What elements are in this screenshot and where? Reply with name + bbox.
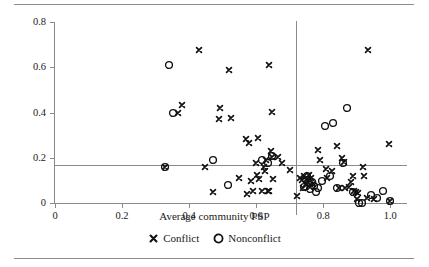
top-rule — [14, 4, 414, 5]
vertical-reference-line — [296, 21, 297, 215]
y-tick-label: 0.6 — [33, 62, 46, 73]
x-axis-label: Average community PSP — [0, 210, 429, 222]
data-point-conflict — [257, 187, 266, 196]
data-point-conflict — [305, 182, 314, 191]
data-point-conflict — [265, 187, 274, 196]
data-point-conflict — [264, 61, 273, 70]
data-point-conflict — [277, 158, 286, 167]
legend-label: Conflict — [163, 232, 199, 244]
data-point-conflict — [216, 103, 225, 112]
data-point-conflict — [260, 167, 269, 176]
data-point-conflict — [268, 108, 277, 117]
data-point-nonconflict — [317, 176, 326, 185]
data-point-conflict — [242, 134, 251, 143]
data-point-nonconflict — [164, 60, 173, 69]
y-tick — [50, 22, 55, 23]
data-point-conflict — [335, 184, 344, 193]
data-point-conflict — [214, 115, 223, 124]
data-point-conflict — [234, 173, 243, 182]
data-point-nonconflict — [306, 184, 315, 193]
x-tick — [189, 203, 190, 208]
figure-container: 00.20.40.60.800.20.40.60.81.0 Average co… — [0, 0, 429, 267]
data-point-conflict — [178, 101, 187, 110]
x-tick — [122, 203, 123, 208]
data-point-conflict — [341, 183, 350, 192]
data-point-nonconflict — [267, 151, 276, 160]
data-point-conflict — [301, 180, 310, 189]
data-point-nonconflict — [264, 159, 273, 168]
data-point-nonconflict — [314, 183, 323, 192]
data-point-nonconflict — [305, 179, 314, 188]
y-tick — [50, 67, 55, 68]
plot-area: 00.20.40.60.800.20.40.60.81.0 — [55, 22, 407, 203]
data-point-conflict — [337, 153, 346, 162]
data-point-conflict — [174, 109, 183, 118]
data-point-conflict — [195, 46, 204, 55]
data-point-nonconflict — [367, 191, 376, 200]
data-point-conflict — [304, 177, 313, 186]
data-point-nonconflict — [343, 103, 352, 112]
data-point-conflict — [252, 159, 261, 168]
data-point-conflict — [364, 46, 373, 55]
legend: ConflictNonconflict — [0, 232, 429, 244]
data-point-nonconflict — [303, 171, 312, 180]
data-point-conflict — [304, 170, 313, 179]
data-point-conflict — [208, 188, 217, 197]
data-point-conflict — [227, 113, 236, 122]
data-point-conflict — [298, 175, 307, 184]
data-point-conflict — [244, 139, 253, 148]
y-tick — [50, 158, 55, 159]
data-point-conflict — [314, 145, 323, 154]
data-point-nonconflict — [333, 183, 342, 192]
data-point-conflict — [321, 165, 330, 174]
data-point-conflict — [360, 172, 369, 181]
data-point-nonconflict — [373, 194, 382, 203]
data-point-nonconflict — [349, 188, 358, 197]
data-point-conflict — [263, 187, 272, 196]
data-point-nonconflict — [169, 109, 178, 118]
data-point-nonconflict — [338, 159, 347, 168]
legend-label: Nonconflict — [228, 232, 281, 244]
data-point-nonconflict — [302, 176, 311, 185]
data-point-conflict — [249, 187, 258, 196]
legend-item: Conflict — [148, 232, 199, 244]
data-point-conflict — [354, 189, 363, 198]
data-point-conflict — [362, 194, 371, 203]
data-point-nonconflict — [325, 171, 334, 180]
data-point-conflict — [307, 173, 316, 182]
data-point-conflict — [348, 172, 357, 181]
data-point-conflict — [285, 165, 294, 174]
data-point-conflict — [274, 153, 283, 162]
data-point-conflict — [345, 182, 354, 191]
x-tick — [256, 203, 257, 208]
data-point-conflict — [266, 146, 275, 155]
data-point-conflict — [224, 65, 233, 74]
data-point-conflict — [327, 167, 336, 176]
circle-marker-icon — [213, 233, 224, 244]
data-point-nonconflict — [321, 122, 330, 131]
data-point-conflict — [262, 155, 271, 164]
y-tick-label: 0.8 — [33, 17, 46, 28]
data-point-conflict — [299, 183, 308, 192]
data-point-nonconflict — [223, 181, 232, 190]
x-tick — [55, 203, 56, 208]
data-point-conflict — [309, 179, 318, 188]
data-point-conflict — [242, 189, 251, 198]
data-point-conflict — [323, 173, 332, 182]
horizontal-reference-line — [55, 165, 407, 166]
data-point-conflict — [332, 142, 341, 151]
x-axis-line — [54, 203, 407, 204]
data-point-conflict — [267, 152, 276, 161]
x-tick — [390, 203, 391, 208]
data-point-nonconflict — [328, 118, 337, 127]
y-tick-label: 0 — [41, 198, 46, 209]
data-point-conflict — [350, 186, 359, 195]
data-point-nonconflict — [312, 187, 321, 196]
data-point-nonconflict — [310, 182, 319, 191]
data-point-conflict — [303, 175, 312, 184]
data-point-conflict — [254, 175, 263, 184]
data-point-conflict — [315, 155, 324, 164]
data-point-conflict — [254, 133, 263, 142]
data-point-nonconflict — [307, 178, 316, 187]
data-point-nonconflict — [299, 183, 308, 192]
